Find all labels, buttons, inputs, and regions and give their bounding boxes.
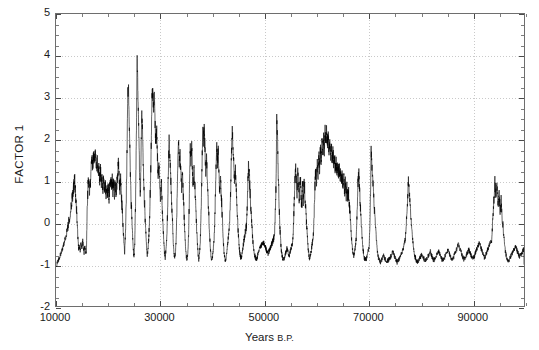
x-tick-label: 70000 bbox=[353, 312, 384, 323]
series-clip bbox=[56, 14, 524, 306]
x-axis-title-main: Years bbox=[245, 331, 274, 343]
y-axis-tick-labels: -2-1012345 bbox=[22, 0, 50, 350]
x-tick-label: 10000 bbox=[40, 312, 71, 323]
y-tick-label: 5 bbox=[44, 7, 50, 18]
y-tick-major bbox=[519, 308, 524, 309]
x-tick-label: 90000 bbox=[457, 312, 488, 323]
y-tick-label: -1 bbox=[40, 259, 50, 270]
factor1-time-series-figure: FACTOR 1 -2-1012345 10000300005000070000… bbox=[0, 0, 539, 350]
factor1-line-series bbox=[56, 14, 524, 306]
y-tick-label: 1 bbox=[44, 175, 50, 186]
y-tick-label: 2 bbox=[44, 133, 50, 144]
x-tick-minor bbox=[526, 303, 527, 306]
plot-area bbox=[55, 13, 525, 307]
x-tick-minor bbox=[526, 14, 527, 17]
x-axis-tick-labels: 1000030000500007000090000 bbox=[0, 312, 539, 328]
y-tick-major bbox=[56, 308, 61, 309]
y-tick-label: 3 bbox=[44, 91, 50, 102]
x-axis-title: Years B.P. bbox=[0, 331, 539, 343]
x-tick-label: 30000 bbox=[144, 312, 175, 323]
x-axis-title-sub: B.P. bbox=[277, 333, 294, 343]
y-tick-label: 4 bbox=[44, 49, 50, 60]
y-tick-label: 0 bbox=[44, 217, 50, 228]
x-tick-label: 50000 bbox=[249, 312, 280, 323]
